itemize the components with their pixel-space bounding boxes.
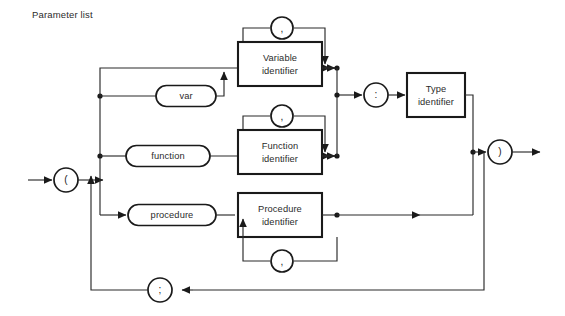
function-identifier-label-line1: Function [262, 141, 298, 151]
procedure-branch-group: procedure [100, 205, 235, 226]
variable-identifier-box[interactable] [238, 42, 322, 86]
function-comma-node: , [271, 105, 293, 127]
var-out-wire [216, 72, 224, 96]
variable-identifier-label-line2: identifier [262, 66, 298, 76]
procedure-identifier-row: Procedure identifier , [238, 193, 473, 272]
terminal-var[interactable]: var [156, 86, 216, 107]
nonterminal-variable-identifier[interactable]: Variable identifier [238, 42, 322, 86]
function-comma-label: , [281, 111, 284, 122]
var-pill-label: var [179, 91, 192, 101]
function-identifier-box[interactable] [238, 130, 322, 174]
open-paren-node: ( [54, 168, 78, 192]
variable-comma-label: , [281, 23, 284, 34]
nonterminal-type-identifier[interactable]: Type identifier [407, 73, 465, 117]
nonterminal-function-identifier[interactable]: Function identifier [238, 130, 322, 174]
semicolon-label: ; [159, 284, 162, 295]
terminal-function[interactable]: function [126, 146, 210, 167]
type-identifier-box[interactable] [407, 73, 465, 117]
colon-node: : [364, 83, 388, 107]
procedure-comma-label: , [281, 256, 284, 267]
procedure-identifier-label-line2: identifier [262, 217, 298, 227]
close-paren-label: ) [498, 146, 501, 157]
procedure-comma-node: , [271, 250, 293, 272]
syntax-diagram-page: Parameter list ( [0, 0, 565, 316]
type-merge-group: : Type identifier [334, 68, 473, 156]
function-identifier-label-line2: identifier [262, 154, 298, 164]
terminal-procedure[interactable]: procedure [128, 205, 216, 226]
feedback-right-and-bottom-wire [193, 152, 484, 290]
function-pill-label: function [151, 151, 184, 161]
junction-merge-to-colon [334, 92, 339, 97]
procedure-identifier-box[interactable] [238, 193, 322, 237]
type-identifier-label-line2: identifier [418, 97, 454, 107]
type-identifier-out-wire [465, 95, 473, 152]
variable-identifier-label-line1: Variable [263, 53, 297, 63]
variable-identifier-row: , Variable identifier [238, 17, 340, 86]
type-identifier-label-line1: Type [426, 84, 447, 94]
nonterminal-procedure-identifier[interactable]: Procedure identifier [238, 193, 322, 237]
close-paren-node: ) [488, 140, 512, 164]
variable-comma-node: , [271, 17, 293, 39]
procedure-comma-loop-right [294, 237, 337, 261]
semicolon-node: ; [148, 278, 172, 302]
function-identifier-row: , Function identifier [238, 105, 340, 174]
exit-bus-group: ) [470, 140, 540, 215]
procedure-pill-label: procedure [151, 210, 194, 220]
colon-label: : [375, 89, 378, 100]
procedure-identifier-label-line1: Procedure [258, 204, 302, 214]
parameter-list-railroad-diagram: ( var [0, 0, 565, 316]
